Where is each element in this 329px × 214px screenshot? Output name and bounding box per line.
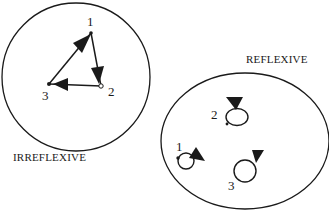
irreflexive-boundary (2, 3, 150, 151)
loop-3-to-3 (234, 150, 264, 182)
arrowhead-icon (73, 34, 91, 53)
edge-2-to-3 (49, 78, 101, 91)
irreflexive-node-3-label: 3 (42, 88, 49, 104)
reflexive-node-1-label: 1 (176, 139, 183, 155)
loop-2-to-2 (226, 97, 248, 126)
reflexive-boundary (161, 73, 329, 209)
edge-3-to-1 (49, 33, 91, 84)
relation-diagram: 1 2 3 IRREFLEXIVE REFLEXIVE 2 1 3 (0, 0, 329, 214)
node-2 (99, 84, 103, 88)
reflexive-set (161, 73, 329, 209)
arrowhead-icon (53, 78, 68, 91)
arrowhead-icon (189, 147, 205, 161)
reflexive-node-3-label: 3 (228, 178, 235, 194)
diagram-canvas (0, 0, 329, 214)
reflexive-node-2-label: 2 (211, 107, 218, 123)
edge-1-to-2 (91, 33, 104, 86)
irreflexive-title: IRREFLEXIVE (13, 151, 86, 163)
arrowhead-icon (91, 66, 104, 84)
irreflexive-set (2, 3, 150, 151)
reflexive-title: REFLEXIVE (246, 53, 308, 65)
irreflexive-node-1-label: 1 (87, 14, 94, 30)
node-2 (226, 123, 229, 126)
irreflexive-node-2-label: 2 (108, 84, 115, 100)
node-3 (47, 82, 51, 86)
node-1 (89, 31, 93, 35)
arrowhead-icon (252, 150, 264, 163)
node-1 (176, 156, 179, 159)
